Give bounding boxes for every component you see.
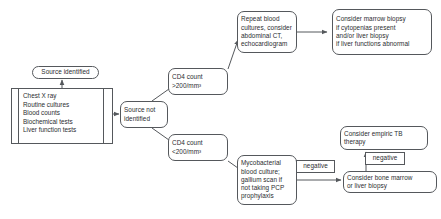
node-repeat-blood-cultures-label: Repeat blood cultures, consider abdomina… — [238, 15, 296, 48]
node-cd4-count-low: CD4 count <200/mm³ — [168, 134, 228, 161]
list-item: Chest X ray — [23, 92, 103, 101]
list-item: Routine cultures — [23, 101, 103, 110]
node-source-identified: Source identified — [32, 66, 99, 79]
node-consider-marrow-biopsy: Consider marrow biopsy if cytopenias pre… — [332, 9, 432, 55]
node-consider-empiric-tb-label: Consider empiric TB therapy — [341, 130, 427, 147]
node-mycobacterial-blood-culture-label: Mycobacterial blood culture; gallium sca… — [238, 159, 296, 200]
edge-label-negative-1: negative — [296, 160, 335, 173]
edge-label-negative-1-text: negative — [297, 162, 334, 170]
flowchart-diagram: Source identified Chest X ray Routine cu… — [0, 0, 441, 219]
list-item: Liver function tests — [23, 126, 103, 135]
edge-label-negative-2-text: negative — [366, 154, 404, 162]
tests-panel-right-rule — [103, 89, 112, 143]
node-initial-tests-panel: Chest X ray Routine cultures Blood count… — [11, 88, 113, 144]
edge-label-negative-2: negative — [365, 152, 405, 165]
tests-panel-list: Chest X ray Routine cultures Blood count… — [19, 89, 103, 143]
node-source-not-identified-label: Source not identified — [121, 106, 167, 123]
node-source-identified-label: Source identified — [33, 68, 98, 76]
node-consider-marrow-biopsy-label: Consider marrow biopsy if cytopenias pre… — [333, 15, 431, 48]
node-consider-bone-marrow: Consider bone marrow or liver biopsy — [343, 171, 437, 193]
node-consider-bone-marrow-label: Consider bone marrow or liver biopsy — [344, 174, 436, 191]
node-source-not-identified: Source not identified — [120, 101, 168, 128]
node-consider-empiric-tb: Consider empiric TB therapy — [340, 126, 428, 150]
node-cd4-count-high-label: CD4 count >200/mm³ — [169, 73, 227, 90]
node-mycobacterial-blood-culture: Mycobacterial blood culture; gallium sca… — [237, 155, 297, 205]
list-item: Blood counts — [23, 109, 103, 118]
tests-panel-left-rule — [12, 89, 19, 143]
node-cd4-count-high: CD4 count >200/mm³ — [168, 68, 228, 95]
node-repeat-blood-cultures: Repeat blood cultures, consider abdomina… — [237, 11, 297, 53]
node-cd4-count-low-label: CD4 count <200/mm³ — [169, 139, 227, 156]
list-item: Biochemical tests — [23, 118, 103, 127]
